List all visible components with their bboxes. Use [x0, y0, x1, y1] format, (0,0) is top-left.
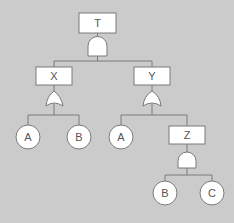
basic-event-B[interactable]: B — [67, 125, 91, 149]
event-X[interactable]: X — [36, 67, 72, 85]
event-T-label: T — [94, 17, 101, 29]
basic-event-A[interactable]: A — [16, 125, 40, 149]
and-gate-icon[interactable] — [178, 152, 196, 168]
event-Y-label: Y — [148, 70, 156, 82]
event-Z[interactable]: Z — [169, 126, 205, 144]
fault-tree-diagram: T X Y A B A Z B C — [0, 0, 234, 223]
basic-event-C-label: C — [208, 187, 216, 199]
basic-event-B-label: B — [161, 187, 168, 199]
event-X-label: X — [50, 70, 58, 82]
basic-event-C[interactable]: C — [200, 181, 224, 205]
event-T[interactable]: T — [79, 13, 116, 33]
event-Z-label: Z — [184, 129, 191, 141]
basic-event-B[interactable]: B — [153, 181, 177, 205]
basic-event-A-label: A — [24, 131, 32, 143]
or-gate-icon[interactable] — [46, 91, 63, 106]
or-gate-icon[interactable] — [143, 91, 161, 106]
basic-event-B-label: B — [75, 131, 82, 143]
basic-event-A-label: A — [117, 131, 125, 143]
and-gate-icon[interactable] — [88, 37, 107, 57]
basic-event-A[interactable]: A — [109, 125, 133, 149]
event-Y[interactable]: Y — [134, 67, 170, 85]
